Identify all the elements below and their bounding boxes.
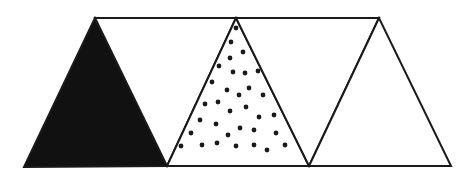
dot	[203, 102, 208, 107]
dot	[200, 143, 205, 148]
triangle-strip-diagram	[0, 0, 475, 172]
dot	[274, 131, 279, 136]
dot	[252, 128, 257, 133]
dot	[243, 71, 248, 76]
dot	[226, 133, 231, 138]
dot	[225, 88, 230, 93]
dot	[238, 126, 243, 131]
dot	[237, 93, 242, 98]
dot	[198, 118, 203, 123]
dot	[214, 122, 219, 127]
dot	[247, 86, 252, 91]
dot	[210, 80, 215, 85]
dot	[244, 105, 249, 110]
dot	[256, 69, 261, 74]
dot	[265, 148, 270, 153]
dot	[229, 40, 234, 45]
dot	[234, 26, 239, 31]
dot	[217, 64, 222, 69]
dot	[272, 113, 277, 118]
dot	[228, 56, 233, 61]
dot	[261, 93, 266, 98]
dot	[234, 144, 239, 149]
dot	[189, 131, 194, 136]
dot	[257, 115, 262, 120]
dot	[283, 143, 288, 148]
dot	[228, 109, 233, 114]
dot	[179, 144, 184, 149]
dot	[216, 100, 221, 105]
dot	[231, 70, 236, 75]
dot	[215, 141, 220, 146]
dot	[241, 50, 246, 55]
dot	[252, 143, 257, 148]
